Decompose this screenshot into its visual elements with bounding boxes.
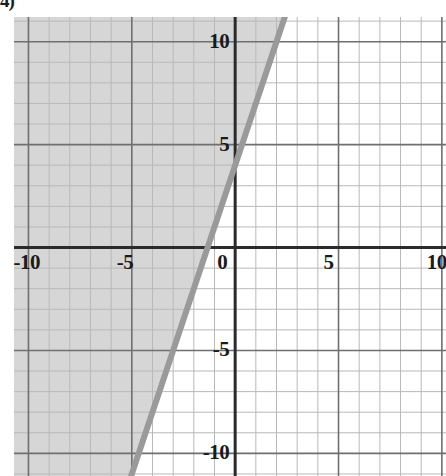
- x-tick-label: -10: [14, 252, 40, 273]
- y-tick-label: -5: [193, 339, 229, 360]
- x-tick-label: 0: [217, 252, 227, 273]
- graph-screenshot: 4) -10-50510105-5-10: [0, 0, 446, 476]
- x-tick-label: 10: [427, 252, 446, 273]
- y-tick-label: -10: [193, 442, 229, 463]
- x-tick-label: -5: [117, 252, 134, 273]
- y-tick-label: 10: [193, 31, 229, 52]
- problem-number-label: 4): [0, 0, 26, 11]
- coordinate-plane: -10-50510105-5-10: [14, 17, 446, 476]
- graph-svg: [14, 17, 446, 476]
- x-tick-label: 5: [324, 252, 334, 273]
- y-tick-label: 5: [193, 134, 229, 155]
